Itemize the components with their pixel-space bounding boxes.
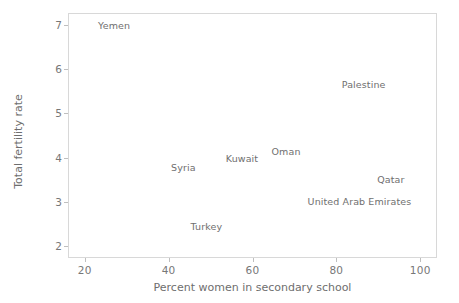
x-axis-title: Percent women in secondary school (68, 281, 437, 294)
y-tick-mark (64, 25, 68, 26)
x-tick-mark (85, 258, 86, 262)
data-point-label: Oman (272, 145, 301, 156)
x-tick-mark (420, 258, 421, 262)
x-tick-label: 60 (246, 264, 260, 276)
data-point-label: Yemen (98, 20, 130, 31)
y-axis-title: Total fertility rate (12, 82, 25, 202)
x-tick-label: 20 (78, 264, 92, 276)
y-tick-mark (64, 202, 68, 203)
data-point-label: Turkey (191, 221, 223, 232)
plot-area (68, 13, 437, 258)
y-tick-label: 7 (50, 19, 62, 31)
y-tick-mark (64, 113, 68, 114)
x-tick-mark (336, 258, 337, 262)
data-point-label: Palestine (342, 79, 386, 90)
y-tick-label: 2 (50, 240, 62, 252)
x-tick-mark (253, 258, 254, 262)
y-tick-mark (64, 69, 68, 70)
y-tick-mark (64, 158, 68, 159)
scatter-chart: 20406080100 234567 YemenPalestineOmanKuw… (0, 0, 459, 303)
y-tick-label: 5 (50, 107, 62, 119)
x-tick-label: 80 (329, 264, 343, 276)
x-tick-label: 100 (410, 264, 431, 276)
y-tick-mark (64, 246, 68, 247)
data-point-label: Kuwait (226, 152, 258, 163)
data-point-label: Qatar (377, 174, 404, 185)
y-tick-label: 3 (50, 196, 62, 208)
x-tick-mark (169, 258, 170, 262)
data-point-label: Syria (171, 162, 196, 173)
y-tick-label: 4 (50, 152, 62, 164)
x-tick-label: 40 (162, 264, 176, 276)
data-point-label: United Arab Emirates (308, 195, 412, 206)
y-tick-label: 6 (50, 63, 62, 75)
